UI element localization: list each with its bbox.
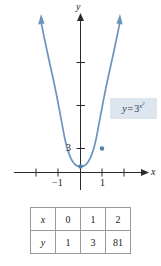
table-row: x 0 1 2	[31, 208, 131, 231]
curve-left-arrow-icon	[38, 14, 44, 25]
equation-exponent-base: x2	[139, 102, 145, 110]
equation-exponent-power: 2	[142, 100, 145, 105]
exponential-function-figure: y x −1 1 3 y=3x2 x 0 1 2 y 1 3 81	[0, 0, 161, 266]
values-table: x 0 1 2 y 1 3 81	[30, 207, 131, 254]
table-cell-x-0: 0	[56, 208, 81, 231]
point-0-1	[78, 164, 82, 168]
x-axis	[14, 169, 149, 177]
x-axis-arrow-icon	[141, 169, 149, 176]
equation-text: y=3x2	[122, 103, 145, 114]
table-cell-y-0: 1	[56, 231, 81, 254]
table-row-header-y: y	[31, 231, 56, 254]
y-axis-arrow-icon	[77, 13, 84, 21]
equation-operator: =	[128, 103, 134, 114]
table-cell-x-1: 1	[81, 208, 106, 231]
equation-lhs: y	[122, 103, 126, 114]
table-cell-y-1: 3	[81, 231, 106, 254]
table-cell-x-2: 2	[106, 208, 131, 231]
x-tick-label-minus1: −1	[52, 178, 63, 188]
table-row: y 1 3 81	[31, 231, 131, 254]
table-row-header-x: x	[31, 208, 56, 231]
x-axis-label: x	[151, 167, 155, 177]
y-axis	[77, 13, 86, 190]
point-1-3	[100, 146, 104, 150]
equation-callout: y=3x2	[110, 98, 157, 119]
curve-right-arrow-icon	[116, 14, 122, 25]
x-tick-label-1: 1	[100, 178, 105, 188]
y-axis-label: y	[76, 2, 80, 12]
y-tick-label-3: 3	[66, 143, 71, 153]
table-cell-y-2: 81	[106, 231, 131, 254]
